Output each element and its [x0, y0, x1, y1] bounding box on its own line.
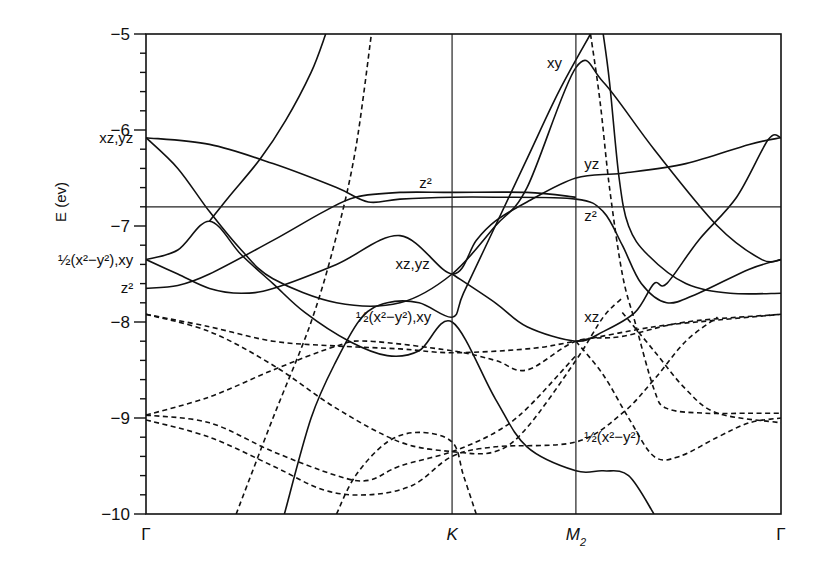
band-solid-2	[146, 138, 781, 303]
kpoint-label: M2	[566, 525, 586, 548]
ann-k-z2: z²	[419, 174, 432, 191]
y-ticks: −5−6−7−8−9−10	[101, 25, 146, 524]
ann-m2-xz: xz	[584, 308, 599, 325]
ann-m2-x2y2: ½(x²−y²)	[584, 428, 640, 445]
kpoint-label: K	[446, 525, 458, 544]
y-tick-label: −8	[111, 313, 130, 332]
band-dashed-19	[622, 312, 781, 422]
band-solid-7	[284, 34, 590, 514]
band-dashed-16	[146, 356, 576, 481]
plot-frame	[146, 34, 781, 514]
k-point-labels: ΓKM2Γ	[141, 525, 785, 548]
band-structure-chart: −5−6−7−8−9−10 ΓKM2Γ xz,yz½(x²−y²),xyz²z²…	[0, 0, 816, 572]
ann-m2-xy: xy	[547, 54, 563, 71]
y-tick-label: −9	[111, 409, 130, 428]
band-dashed-14	[146, 314, 781, 415]
band-dashed-15	[146, 317, 718, 495]
y-tick-label: −5	[111, 25, 130, 44]
plot-border	[146, 34, 781, 514]
bands-group	[146, 34, 781, 514]
band-dashed-11	[591, 34, 782, 414]
kpoint-label: Γ	[776, 525, 785, 544]
band-solid-6	[146, 138, 781, 294]
ann-gamma-x2y2xy: ½(x²−y²),xy	[58, 251, 134, 268]
ann-gamma-xzyz: xz,yz	[99, 129, 133, 146]
kpoint-label: Γ	[141, 525, 150, 544]
ann-gamma-z2: z²	[121, 279, 134, 296]
ann-k-xzyz: xz,yz	[396, 255, 430, 272]
y-tick-label: −10	[101, 505, 130, 524]
band-solid-3	[210, 34, 326, 221]
ann-k-x2y2xy: ½(x²−y²),xy	[356, 308, 432, 325]
ann-m2-yz: yz	[584, 155, 599, 172]
y-tick-label: −7	[111, 217, 130, 236]
y-axis-label: E (ev)	[52, 182, 69, 222]
band-dashed-13	[146, 314, 781, 352]
ann-m2-z2: z²	[584, 207, 597, 224]
